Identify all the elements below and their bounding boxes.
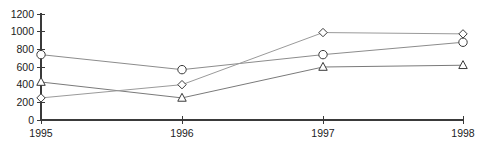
x-tick-label: 1997 [311,127,335,139]
data-point-diamond [178,80,186,88]
series-line-triangle [41,65,463,98]
data-point-circle [319,50,327,58]
y-tick-label: 0 [28,114,34,126]
data-point-circle [178,65,186,73]
y-tick-label: 1000 [11,25,35,37]
data-point-triangle [37,77,45,85]
chart-plot-area: 020040060080010001200 1995199619971998 [0,0,483,152]
data-point-diamond [37,94,45,102]
x-tick-label-group: 1995199619971998 [29,127,475,139]
x-axis: 1995199619971998 [29,116,475,139]
x-tick-label: 1995 [29,127,53,139]
y-tick-label: 200 [16,96,34,108]
x-tick-label: 1996 [170,127,194,139]
y-tick-label-group: 020040060080010001200 [11,8,35,126]
line-chart: 020040060080010001200 1995199619971998 [0,0,483,152]
data-point-circle [37,50,45,58]
data-point-triangle [459,61,467,69]
data-point-circle [459,38,467,46]
data-point-diamond [459,30,467,38]
y-tick-label: 600 [16,61,34,73]
y-axis: 020040060080010001200 [11,8,45,126]
series-marker-group [37,28,467,102]
x-tick-label: 1998 [451,127,475,139]
data-point-diamond [319,28,327,36]
series-line-diamond [41,33,463,98]
data-point-triangle [319,62,327,70]
y-tick-label: 400 [16,78,34,90]
series-line-group [41,33,463,98]
y-tick-label: 1200 [11,8,35,20]
y-tick-label: 800 [16,43,34,55]
